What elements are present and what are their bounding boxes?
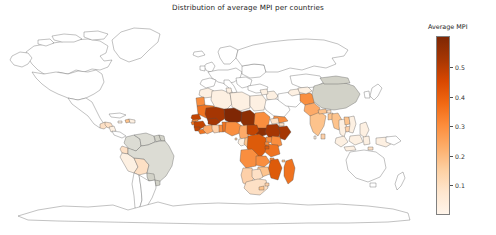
country-tasmania <box>370 183 376 187</box>
colorbar-tick-label: 0.4 <box>455 93 465 100</box>
country-swaziland <box>265 183 269 186</box>
country-uruguay <box>155 180 160 186</box>
country-jamaica <box>118 121 122 123</box>
country-western-sahara <box>196 97 205 106</box>
country-rwanda <box>265 142 269 145</box>
choropleth-figure: Distribution of average MPI per countrie… <box>0 0 496 235</box>
country-tunisia <box>226 88 232 93</box>
country-maldives <box>314 136 316 139</box>
region-korea <box>364 91 370 98</box>
country-indonesia-java <box>344 146 356 151</box>
country-bhutan <box>327 110 331 113</box>
colorbar-tick-mark <box>450 97 453 98</box>
country-sao-tome-principe <box>235 138 237 140</box>
chart-title: Distribution of average MPI per countrie… <box>0 3 496 12</box>
colorbar-tick-mark <box>450 185 453 186</box>
country-burundi <box>265 146 269 149</box>
colorbar-tick-label: 0.5 <box>455 64 465 71</box>
country-egypt <box>250 95 266 111</box>
country-nepal <box>318 109 327 114</box>
colorbar: Average MPI 0.10.20.30.40.5 <box>428 20 494 225</box>
world-map: .land { stroke: #4d4d4d; stroke-width: 0… <box>8 20 418 232</box>
colorbar-tick-mark <box>450 67 453 68</box>
world-map-svg: .land { stroke: #4d4d4d; stroke-width: 0… <box>8 20 418 232</box>
country-comoros <box>282 160 285 162</box>
colorbar-label: Average MPI <box>428 23 468 31</box>
colorbar-gradient-wrap: 0.10.20.30.40.5 <box>436 36 450 215</box>
colorbar-tick-mark <box>450 156 453 157</box>
country-sri-lanka <box>321 134 325 139</box>
country-timor-leste <box>368 147 373 150</box>
colorbar-tick-label: 0.3 <box>455 123 465 130</box>
colorbar-tick-label: 0.2 <box>455 152 465 159</box>
colorbar-tick-label: 0.1 <box>455 182 465 189</box>
country-indonesia-sulawesi <box>363 136 370 145</box>
colorbar-tick-mark <box>450 126 453 127</box>
colorbar-gradient <box>436 36 450 215</box>
country-ireland <box>200 66 205 71</box>
country-djibouti <box>279 123 284 126</box>
